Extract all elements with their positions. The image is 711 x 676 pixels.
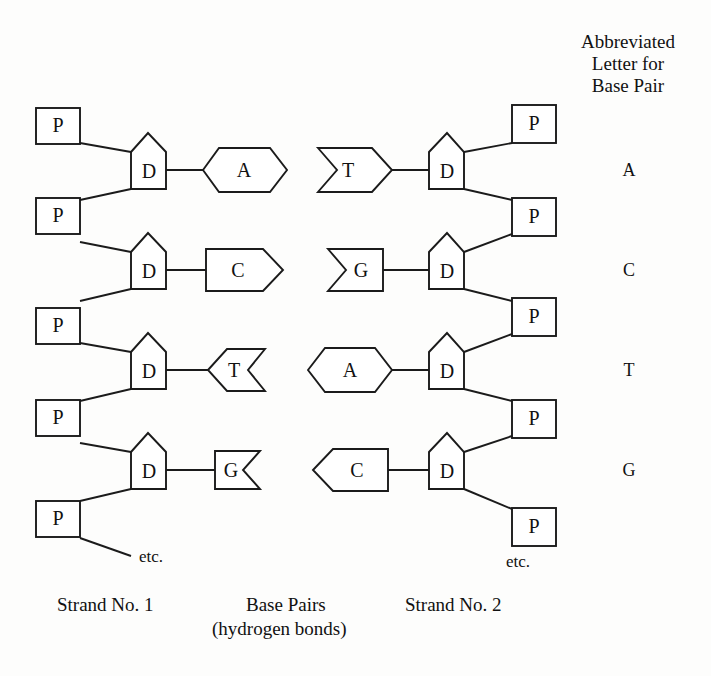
- legend-letter-3: T: [624, 360, 635, 380]
- strand2-phosphate-2[interactable]: P: [512, 198, 556, 236]
- backbone-seg-l4: [80, 289, 131, 301]
- sugar-label: D: [440, 260, 454, 282]
- strand1-base-bonds: [166, 170, 215, 470]
- sugar-label: D: [440, 460, 454, 482]
- strand1-phosphate-1[interactable]: P: [36, 108, 80, 144]
- base-label: T: [342, 159, 354, 181]
- strand2-base-G[interactable]: G: [328, 249, 383, 291]
- caption-strand-1: Strand No. 1: [57, 594, 154, 615]
- sugar-label: D: [142, 260, 156, 282]
- base-pentagon-T: [318, 148, 392, 192]
- base-label: G: [224, 459, 238, 481]
- strand1-phosphate-5[interactable]: P: [36, 501, 80, 537]
- phosphate-label: P: [52, 507, 63, 529]
- phosphate-label: P: [52, 314, 63, 336]
- sugar-label: D: [440, 360, 454, 382]
- phosphate-label: P: [528, 515, 539, 537]
- etc-label-right: etc.: [506, 552, 530, 571]
- backbone-seg-r8-etc: [464, 489, 512, 509]
- legend-heading: Abbreviated Letter for Base Pair: [581, 31, 675, 96]
- sugar-label: D: [142, 460, 156, 482]
- base-label: A: [237, 159, 252, 181]
- strand1-sugar-4[interactable]: D: [131, 433, 166, 489]
- strand2-backbone: [464, 143, 512, 509]
- backbone-seg-l6: [80, 389, 131, 401]
- backbone-seg-l2: [80, 189, 131, 200]
- backbone-seg-r2: [464, 189, 512, 200]
- strand1-sugar-3[interactable]: D: [131, 333, 166, 389]
- base-label: A: [343, 359, 358, 381]
- backbone-seg-l3: [80, 242, 131, 252]
- strand2-sugar-2[interactable]: D: [429, 233, 464, 289]
- base-label: C: [231, 259, 244, 281]
- backbone-seg-r6: [464, 389, 512, 401]
- dna-diagram: P P P P P D D D: [0, 0, 711, 676]
- backbone-seg-l1: [80, 143, 131, 152]
- sugar-label: D: [142, 160, 156, 182]
- strand2-base-T[interactable]: T: [318, 148, 392, 192]
- dna-schematic-svg: P P P P P D D D: [0, 0, 711, 676]
- phosphate-label: P: [528, 205, 539, 227]
- phosphate-label: P: [52, 204, 63, 226]
- phosphate-label: P: [528, 407, 539, 429]
- strand2-phosphate-1[interactable]: P: [512, 105, 556, 143]
- phosphate-label: P: [52, 114, 63, 136]
- legend-heading-line2: Letter for: [592, 53, 665, 74]
- strand2-phosphate-3[interactable]: P: [512, 298, 556, 336]
- sugar-label: D: [440, 160, 454, 182]
- backbone-seg-r1: [464, 143, 512, 152]
- strand1-phosphate-3[interactable]: P: [36, 308, 80, 344]
- strand1-phosphate-4[interactable]: P: [36, 400, 80, 436]
- backbone-seg-r3: [464, 234, 512, 252]
- legend-letter-4: G: [623, 460, 636, 480]
- strand2-phosphate-5[interactable]: P: [512, 508, 556, 546]
- caption-base-pairs-line2: (hydrogen bonds): [212, 618, 347, 640]
- strand1-base-A[interactable]: A: [203, 148, 287, 192]
- legend-letter-column: A C T G: [623, 160, 636, 480]
- backbone-seg-r4: [464, 289, 512, 301]
- legend-letter-2: C: [623, 260, 635, 280]
- strand2-base-bonds: [383, 170, 429, 470]
- phosphate-label: P: [52, 406, 63, 428]
- strand1-sugar-1[interactable]: D: [131, 133, 166, 189]
- base-label: C: [350, 459, 363, 481]
- backbone-seg-l5: [80, 343, 131, 352]
- legend-heading-line1: Abbreviated: [581, 31, 675, 52]
- caption-base-pairs-line1: Base Pairs: [246, 594, 326, 615]
- strand2-base-C[interactable]: C: [313, 449, 388, 491]
- backbone-seg-l7: [80, 443, 131, 452]
- backbone-seg-l9-etc: [80, 538, 131, 556]
- backbone-seg-r5: [464, 334, 512, 352]
- base-label: T: [228, 359, 240, 381]
- strand1-sugar-2[interactable]: D: [131, 233, 166, 289]
- phosphate-label: P: [528, 305, 539, 327]
- caption-strand-2: Strand No. 2: [405, 594, 502, 615]
- strand1-base-C[interactable]: C: [206, 249, 283, 291]
- legend-letter-1: A: [623, 160, 636, 180]
- strand2-base-A[interactable]: A: [308, 348, 392, 392]
- strand1-base-G[interactable]: G: [215, 451, 260, 489]
- strand2-sugar-1[interactable]: D: [429, 133, 464, 189]
- strand1-base-T[interactable]: T: [208, 349, 265, 391]
- strand1-backbone: [80, 143, 131, 556]
- base-label: G: [354, 259, 368, 281]
- backbone-seg-r7: [464, 436, 512, 452]
- backbone-seg-l8: [80, 489, 131, 501]
- phosphate-label: P: [528, 112, 539, 134]
- strand2-sugar-3[interactable]: D: [429, 333, 464, 389]
- etc-label-left: etc.: [139, 547, 163, 566]
- strand2-sugar-4[interactable]: D: [429, 433, 464, 489]
- strand2-phosphate-4[interactable]: P: [512, 400, 556, 438]
- sugar-label: D: [142, 360, 156, 382]
- strand1-phosphate-2[interactable]: P: [36, 198, 80, 234]
- legend-heading-line3: Base Pair: [592, 75, 665, 96]
